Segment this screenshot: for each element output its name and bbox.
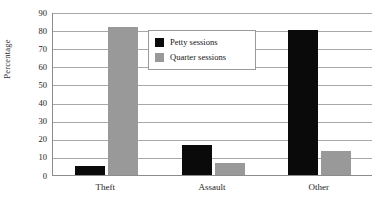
bar-other-quarter: [321, 151, 351, 175]
y-axis-tick-label: 20: [25, 135, 47, 144]
y-axis-tick-label: 50: [25, 81, 47, 90]
bar-assault-petty: [182, 145, 212, 175]
y-axis-tick-label: 30: [25, 117, 47, 126]
y-axis-title: Percentage: [2, 11, 16, 107]
y-axis-tick-label: 90: [25, 9, 47, 18]
chart-legend: Petty sessions Quarter sessions: [148, 30, 256, 70]
legend-label-quarter: Quarter sessions: [170, 53, 226, 62]
y-axis-tick-label: 40: [25, 99, 47, 108]
legend-label-petty: Petty sessions: [170, 38, 217, 47]
legend-item-quarter-sessions: Quarter sessions: [155, 50, 249, 65]
x-axis-tick-label-other: Other: [279, 182, 359, 192]
legend-swatch-icon-quarter: [155, 53, 164, 62]
bar-theft-petty: [75, 166, 105, 175]
y-axis-tick-label: 80: [25, 27, 47, 36]
x-axis-tick-labels: TheftAssaultOther: [52, 182, 372, 202]
y-axis-tick-label: 60: [25, 63, 47, 72]
legend-item-petty-sessions: Petty sessions: [155, 35, 249, 50]
y-axis-tick-label: 70: [25, 45, 47, 54]
gridline: [53, 104, 372, 105]
bar-other-petty: [288, 30, 318, 175]
gridline: [53, 85, 372, 86]
y-axis-tick-label: 10: [25, 153, 47, 162]
bar-theft-quarter: [108, 27, 138, 176]
x-axis-tick-label-theft: Theft: [65, 182, 145, 192]
x-axis-tick-label-assault: Assault: [172, 182, 252, 192]
y-axis-tick-labels: 0102030405060708090: [25, 0, 47, 205]
y-axis-tick-label: 0: [25, 172, 47, 181]
gridline: [53, 122, 372, 123]
bar-assault-quarter: [215, 163, 245, 175]
legend-swatch-icon-petty: [155, 38, 164, 47]
gridline: [53, 140, 372, 141]
bar-chart: Percentage 0102030405060708090 TheftAssa…: [0, 0, 383, 205]
gridline: [53, 13, 372, 14]
